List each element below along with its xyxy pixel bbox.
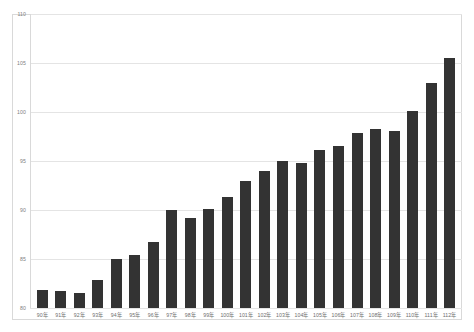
y-axis-tick-label: 110 <box>0 11 26 17</box>
bar-slot <box>181 14 200 308</box>
x-axis-tick-label: 112年 <box>440 308 459 324</box>
x-axis-tick-label: 110年 <box>403 308 422 324</box>
bar-slot <box>89 14 108 308</box>
y-axis-tick-label: 90 <box>0 207 26 213</box>
y-axis-tick-label: 105 <box>0 60 26 66</box>
bar-slot <box>440 14 459 308</box>
bar-slot <box>218 14 237 308</box>
bar-slot <box>107 14 126 308</box>
x-axis-tick-label: 111年 <box>422 308 441 324</box>
bar <box>407 111 418 308</box>
bar <box>444 58 455 308</box>
bar <box>92 280 103 308</box>
bar <box>148 242 159 308</box>
bar-slot <box>422 14 441 308</box>
bar-slot <box>33 14 52 308</box>
bar <box>129 255 140 308</box>
x-axis-tick-label: 107年 <box>348 308 367 324</box>
bar-slot <box>403 14 422 308</box>
bar <box>259 171 270 308</box>
bar-slot <box>385 14 404 308</box>
x-axis-tick-label: 94年 <box>107 308 126 324</box>
bar-slot <box>255 14 274 308</box>
bar <box>55 291 66 308</box>
bar-slot <box>311 14 330 308</box>
bar <box>333 146 344 308</box>
x-axis-tick-label: 109年 <box>385 308 404 324</box>
bar-slot <box>163 14 182 308</box>
bar <box>240 181 251 308</box>
bar-slot <box>144 14 163 308</box>
bar <box>222 197 233 308</box>
y-axis-tick-label: 85 <box>0 256 26 262</box>
bar-slot <box>126 14 145 308</box>
x-axis-tick-label: 97年 <box>163 308 182 324</box>
bar <box>426 83 437 308</box>
x-axis-tick-label: 91年 <box>52 308 71 324</box>
x-axis-tick-label: 90年 <box>33 308 52 324</box>
y-axis-tick-label: 80 <box>0 305 26 311</box>
x-axis-tick-label: 103年 <box>274 308 293 324</box>
bar <box>185 218 196 308</box>
bar <box>314 150 325 308</box>
x-axis-tick-label: 99年 <box>200 308 219 324</box>
bar-slot <box>237 14 256 308</box>
bar <box>74 293 85 308</box>
bar-chart: 80859095100105110 90年91年92年93年94年95年96年9… <box>0 0 474 332</box>
x-axis-tick-label: 105年 <box>311 308 330 324</box>
bar <box>203 209 214 308</box>
bar-slot <box>200 14 219 308</box>
x-axis-tick-label: 104年 <box>292 308 311 324</box>
bar <box>277 161 288 308</box>
x-axis-tick-label: 92年 <box>70 308 89 324</box>
bar <box>111 259 122 308</box>
bar-slot <box>292 14 311 308</box>
bar <box>166 210 177 308</box>
bar-slot <box>70 14 89 308</box>
x-axis-tick-label: 96年 <box>144 308 163 324</box>
bar-slot <box>274 14 293 308</box>
x-axis-tick-label: 101年 <box>237 308 256 324</box>
bar <box>296 163 307 308</box>
x-axis-tick-label: 93年 <box>89 308 108 324</box>
bar <box>370 129 381 308</box>
bar <box>37 290 48 308</box>
bar-slot <box>329 14 348 308</box>
x-axis-tick-label: 106年 <box>329 308 348 324</box>
x-axis-tick-label: 98年 <box>181 308 200 324</box>
x-axis-tick-label: 100年 <box>218 308 237 324</box>
x-axis-tick-labels: 90年91年92年93年94年95年96年97年98年99年100年101年10… <box>30 308 462 324</box>
bar-slot <box>52 14 71 308</box>
bar <box>389 131 400 308</box>
bar-slot <box>348 14 367 308</box>
x-axis-tick-label: 108年 <box>366 308 385 324</box>
bars-layer <box>30 14 462 308</box>
y-axis-tick-label: 100 <box>0 109 26 115</box>
bar-slot <box>366 14 385 308</box>
bar <box>352 133 363 308</box>
x-axis-tick-label: 95年 <box>126 308 145 324</box>
x-axis-tick-label: 102年 <box>255 308 274 324</box>
y-axis-tick-label: 95 <box>0 158 26 164</box>
